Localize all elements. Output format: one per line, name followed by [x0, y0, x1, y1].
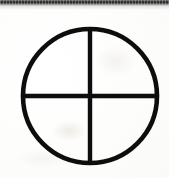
quartered-circle-symbol: [0, 0, 169, 178]
symbol-canvas: Earth symbol (circle with inscribed cros…: [0, 0, 169, 178]
